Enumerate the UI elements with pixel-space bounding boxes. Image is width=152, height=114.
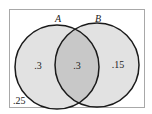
venn-diagram: A B .3 .3 .15 .25 [0,0,152,114]
region-a-and-b: .3 [73,60,81,71]
region-b-only: .15 [112,59,125,70]
region-a-only: .3 [34,60,42,71]
set-a-label: A [54,13,62,24]
region-neither: .25 [13,95,26,106]
set-b-label: B [95,13,101,24]
